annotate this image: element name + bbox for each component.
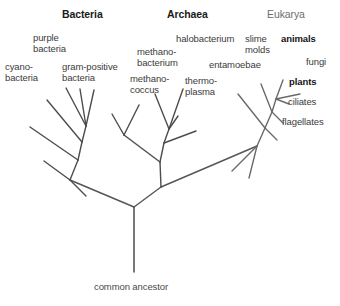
domain-header-eukarya: Eukarya (267, 9, 305, 20)
archaea-tip-branch-methanococcus-stem (124, 105, 139, 135)
taxon-label-halobacterium: halobacterium (176, 34, 234, 45)
bacteria-tip-branch-cyano-stem (30, 127, 78, 160)
taxon-label-cyanobacteria: cyano- bacteria (5, 62, 38, 83)
eukarya-spine-2 (265, 112, 272, 128)
bacteria-spine-3 (82, 126, 86, 142)
taxon-label-animals: animals (281, 34, 316, 45)
archaea-to-eukarya-link (161, 146, 257, 187)
bacteria-branches (30, 88, 94, 196)
taxon-label-slime-molds: slime molds (245, 34, 270, 55)
eukarya-tip-branch-slime-molds (261, 84, 272, 112)
domain-header-bacteria: Bacteria (62, 9, 103, 20)
taxon-label-flagellates: flagellates (282, 117, 324, 128)
taxon-label-entamoebae: entamoebae (209, 60, 261, 71)
eukarya-tip-branch-flagellates (265, 128, 277, 140)
eukarya-spine-3 (272, 99, 276, 112)
eukarya-tip-branch-entamoebae (238, 94, 265, 128)
taxon-label-purple-bacteria: purple bacteria (33, 33, 66, 54)
eukarya-branches (232, 80, 300, 178)
domain-header-archaea: Archaea (167, 9, 208, 20)
archaea-tip-branch-halobacterium (169, 89, 183, 129)
eukarya-spine-1 (257, 128, 265, 146)
archaea-tip-branch-methanobacterium (155, 94, 169, 129)
taxon-label-fungi: fungi (306, 57, 326, 68)
bacteria-spine-1 (70, 160, 78, 180)
archaea-tip-branch-right-low (164, 131, 196, 143)
taxon-label-plants: plants (289, 77, 316, 88)
trunk-to-archaea (134, 187, 161, 207)
root-label-common-ancestor: common ancestor (94, 282, 168, 293)
bacteria-spine-2 (78, 142, 82, 160)
taxon-label-thermoplasma: thermo- plasma (185, 76, 217, 97)
trunk-to-bacteria (70, 180, 134, 207)
archaea-tip-branch-left-low (124, 135, 160, 162)
eukarya-tip-branch-animals (276, 80, 283, 99)
archaea-spine-2 (160, 143, 164, 162)
bacteria-tip-branch-gram (86, 90, 94, 126)
taxon-label-gram-positive-bacteria: gram-positive bacteria (62, 62, 118, 83)
archaea-spine-1 (160, 162, 161, 187)
bacteria-tip-branch-extra-low (44, 161, 70, 180)
archaea-branches (112, 89, 196, 187)
taxon-label-methanococcus: methano- coccus (130, 74, 169, 95)
bacteria-tip-branch-cyano (47, 100, 82, 142)
taxon-label-methanobacterium: methano- bacterium (137, 47, 178, 68)
phylogenetic-tree-figure: Bacteria Archaea Eukarya purple bacteria… (0, 0, 340, 306)
archaea-tip-branch-methanococcus-left (112, 114, 124, 135)
taxon-label-ciliates: ciliates (288, 97, 316, 108)
main-trunk-branches (70, 146, 257, 207)
bacteria-tip-branch-extra-low2 (70, 180, 86, 196)
